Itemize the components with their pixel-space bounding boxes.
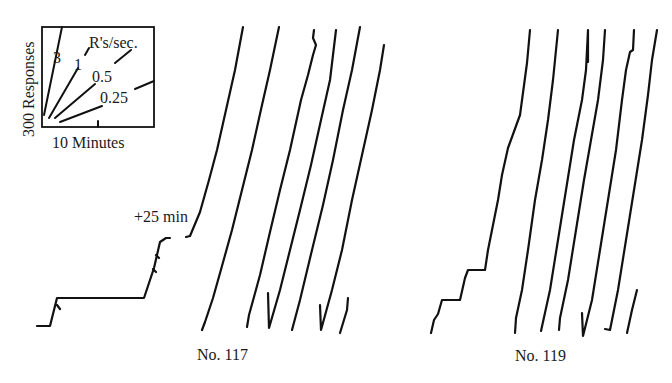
rate-header-label: R's/sec. — [89, 34, 138, 51]
y-axis-label: 300 Responses — [20, 41, 38, 137]
rate-3-label: 3 — [53, 49, 61, 66]
record-119-segment-4 — [559, 30, 605, 330]
record-119-segment-5 — [582, 30, 634, 336]
gap-annotation: +25 min — [134, 208, 188, 225]
record-117-segment-1 — [37, 238, 170, 326]
record-117-segment-2 — [186, 27, 243, 237]
record-no-119 — [431, 30, 657, 336]
record-119-segment-1 — [431, 30, 530, 333]
record-117-segment-7 — [320, 45, 384, 330]
record-119-segment-7 — [627, 290, 637, 333]
record-117-segment-8 — [340, 298, 348, 333]
record-no-117 — [37, 27, 384, 333]
record-117-segment-5 — [268, 30, 336, 328]
record-117-segment-3 — [202, 27, 279, 330]
cumulative-record-figure: 3 1 R's/sec. 0.5 0.25 10 Minutes 300 Res… — [0, 0, 672, 383]
rate-025-label: 0.25 — [100, 89, 128, 106]
rate-1-label: 1 — [74, 56, 82, 73]
panel-label-117: No. 117 — [197, 346, 248, 363]
panel-label-119: No. 119 — [515, 347, 566, 364]
record-119-segment-2 — [515, 30, 558, 333]
x-axis-label: 10 Minutes — [52, 134, 124, 151]
record-119-segment-6 — [605, 30, 657, 330]
record-117-pip — [57, 255, 159, 309]
slope-025-line-tail — [135, 81, 154, 89]
slope-legend: 3 1 R's/sec. 0.5 0.25 10 Minutes 300 Res… — [20, 27, 154, 151]
slope-05-line — [55, 84, 95, 118]
rate-05-label: 0.5 — [92, 68, 112, 85]
record-119-segment-3 — [541, 30, 588, 331]
record-117-segment-6 — [292, 27, 360, 330]
slope-05-line-tail — [115, 50, 131, 63]
